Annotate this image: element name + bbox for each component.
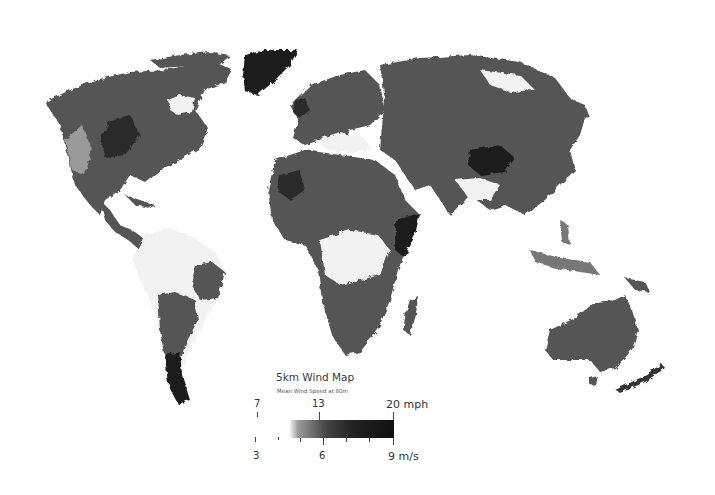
region-patagonia: [165, 352, 190, 404]
region-horn-of-africa: [395, 213, 420, 258]
minor-tick: [369, 438, 370, 442]
ms-mid-label: 6: [319, 450, 325, 461]
region-southeast-asia-islands: [530, 250, 600, 275]
region-australia: [545, 295, 638, 372]
legend-subtitle: Mean Wind Speed at 80m: [277, 388, 348, 394]
minor-tick: [278, 437, 279, 440]
ms-min-tick: [255, 437, 256, 442]
region-tasmania: [589, 376, 598, 385]
mph-min-tick: [257, 412, 258, 417]
legend: 5km Wind Map Mean Wind Speed at 80m 7 13…: [250, 368, 450, 478]
region-new-guinea: [625, 278, 650, 292]
minor-tick: [346, 438, 347, 442]
region-madagascar: [403, 296, 418, 335]
mph-min-label: 7: [254, 398, 260, 409]
region-caribbean: [125, 195, 155, 208]
region-greenland: [243, 50, 298, 95]
ms-min-label: 3: [253, 450, 259, 461]
minor-tick: [300, 438, 301, 442]
ms-max-tick: [393, 438, 394, 445]
ms-max-label: 9 m/s: [388, 450, 419, 463]
wind-speed-gradient-bar: [290, 420, 394, 438]
mph-max-label: 20 mph: [386, 398, 428, 411]
legend-title: 5km Wind Map: [276, 371, 354, 383]
region-philippines: [560, 220, 570, 245]
ms-mid-tick: [323, 438, 324, 445]
mph-mid-label: 13: [312, 398, 325, 409]
region-new-zealand: [615, 364, 665, 393]
